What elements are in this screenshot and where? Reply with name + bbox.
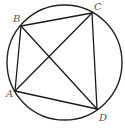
vertex-label-d: D <box>98 112 107 123</box>
vertex-label-b: B <box>12 13 20 24</box>
side-ab <box>15 26 21 91</box>
diagonal-bd <box>21 26 97 109</box>
cyclic-quadrilateral-diagram: A B C D <box>0 0 125 134</box>
vertex-label-a: A <box>5 88 13 99</box>
side-cd <box>92 13 97 109</box>
circumscribed-circle <box>7 5 122 120</box>
vertex-label-c: C <box>94 1 102 12</box>
